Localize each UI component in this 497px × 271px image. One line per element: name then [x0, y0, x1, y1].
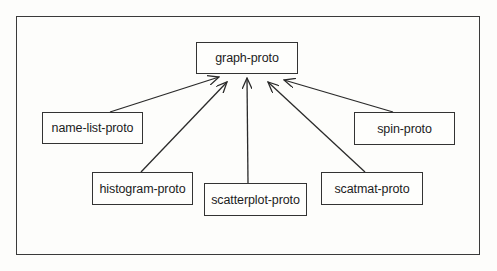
arrow-spin-to-graph [284, 80, 393, 112]
node-scatterplot-proto: scatterplot-proto [204, 183, 307, 216]
arrow-scatterplot-to-graph [247, 78, 248, 183]
node-histogram-proto: histogram-proto [92, 172, 193, 205]
node-label: spin-proto [377, 122, 432, 136]
node-name-list-proto: name-list-proto [42, 112, 143, 144]
node-label: name-list-proto [52, 121, 134, 135]
arrow-scatmat-to-graph [268, 82, 365, 172]
node-label: histogram-proto [99, 182, 185, 196]
node-label: scatmat-proto [334, 182, 409, 196]
node-spin-proto: spin-proto [354, 112, 455, 145]
arrow-histogram-to-graph [141, 82, 227, 172]
node-label: graph-proto [215, 51, 279, 65]
node-scatmat-proto: scatmat-proto [321, 172, 423, 205]
node-graph-proto: graph-proto [196, 42, 298, 74]
node-label: scatterplot-proto [211, 193, 300, 207]
